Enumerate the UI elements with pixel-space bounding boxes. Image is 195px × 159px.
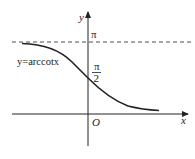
- asymptote-label: π: [91, 28, 97, 40]
- origin-label: O: [92, 116, 100, 128]
- intercept-numerator: π: [94, 60, 100, 72]
- intercept-denominator: 2: [94, 72, 100, 84]
- arccot-graph: y x O π π 2 y=arccotx: [0, 0, 195, 159]
- x-axis-label: x: [180, 114, 186, 126]
- function-label: y=arccotx: [17, 56, 60, 67]
- arccot-curve: [22, 44, 159, 111]
- y-axis-label: y: [78, 11, 84, 23]
